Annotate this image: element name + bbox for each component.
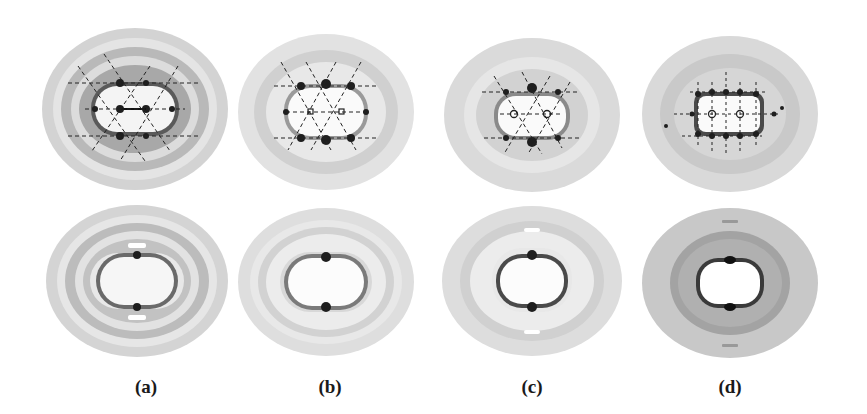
label-a: (a): [116, 376, 176, 398]
panel-c-bottom: [440, 204, 624, 358]
panel-b-bottom: [236, 206, 416, 358]
panel-a-top: [40, 26, 230, 192]
figure: (a) (b) (c) (d): [0, 0, 867, 414]
label-d: (d): [700, 376, 760, 398]
panel-d-top: [638, 34, 820, 194]
panel-d-bottom: [640, 206, 822, 360]
panel-b-top: [236, 32, 416, 192]
panel-a-bottom: [44, 203, 230, 359]
panel-c-top: [442, 36, 622, 194]
label-b: (b): [300, 376, 360, 398]
label-c: (c): [502, 376, 562, 398]
